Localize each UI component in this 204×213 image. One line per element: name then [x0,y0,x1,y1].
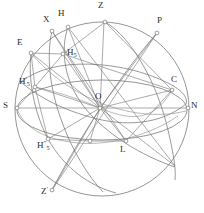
radius-o-to-p [100,33,157,108]
oblique-circle-e-lower [30,53,116,193]
marker-h5 [61,52,65,56]
label-north: N [191,101,198,110]
label-h5-prime: H'5 [19,77,30,86]
chord-l-to-c [126,90,172,141]
chord-e-to-h5prime [31,53,35,87]
marker-south [15,106,19,110]
label-h5: H5 [67,48,77,57]
marker-l [124,139,128,143]
marker-nadir [50,188,54,192]
label-l: L [120,145,126,154]
marker-pole [155,31,159,35]
chord-e-to-h5 [31,53,63,54]
radius-o-to-x [52,31,100,108]
radius-o-to-nadir [52,108,100,190]
marker-unlabeled-lower [88,139,92,143]
marker-h [66,25,70,29]
marker-zenith [103,20,107,24]
marker-north [186,106,190,110]
label-east: E [17,38,23,47]
label-nadir: Z' [41,187,48,196]
radius-o-to-h5prime [35,87,100,108]
marker-east [29,51,33,55]
celestial-sphere-svg [0,0,204,213]
label-pole: P [157,16,162,25]
marker-origin [98,106,102,110]
label-c: C [171,75,177,84]
marker-h5-prime [33,85,37,89]
celestial-sphere-figure: Z H X P E H5 C H'5 S O N H″5 L Z' [0,0,204,213]
label-x: X [43,15,50,24]
label-origin: O [95,92,102,101]
marker-x [50,29,54,33]
chord-z-to-c [105,22,172,90]
marker-c [170,88,174,92]
celestial-equator-upper [21,64,186,104]
label-zenith: Z [98,1,104,10]
label-south: S [3,101,8,110]
label-h: H [58,9,65,18]
label-h5-double-prime: H″5 [37,141,50,150]
